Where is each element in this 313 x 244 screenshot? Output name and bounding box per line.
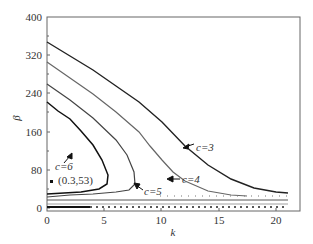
chart-svg: 0 80 160 240 320 400 0 5 10 15 20 k β (0…	[0, 0, 313, 244]
y-tick-240: 240	[26, 87, 43, 99]
x-tick-15: 15	[214, 214, 226, 226]
x-tick-0: 0	[44, 214, 50, 226]
arrowhead-c4	[167, 176, 173, 182]
point-marker	[50, 180, 53, 183]
curve-c3	[47, 42, 288, 193]
x-tick-10: 10	[156, 214, 168, 226]
y-tick-160: 160	[26, 126, 43, 138]
y-tick-80: 80	[31, 164, 43, 176]
y-tick-0: 0	[37, 202, 43, 214]
label-c4: c=4	[182, 173, 200, 185]
label-c5: c=5	[144, 185, 162, 197]
x-tick-5: 5	[101, 214, 107, 226]
point-label: (0.3,53)	[58, 174, 93, 187]
label-c6: c=6	[55, 160, 73, 172]
label-c3: c=3	[196, 141, 214, 153]
y-tick-320: 320	[26, 49, 43, 61]
x-axis-label: k	[171, 226, 177, 238]
x-tick-20: 20	[271, 214, 283, 226]
y-tick-400: 400	[26, 11, 43, 23]
arrowhead-c5	[134, 183, 140, 189]
y-axis-label: β	[10, 115, 22, 122]
